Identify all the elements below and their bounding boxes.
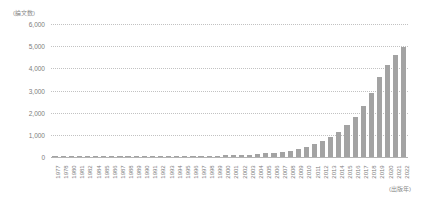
y-axis-tick-label: 0 — [5, 154, 45, 161]
x-label-slot: 1997 — [197, 159, 205, 189]
bar — [280, 152, 285, 157]
x-label-slot: 1996 — [189, 159, 197, 189]
bar — [166, 156, 171, 157]
bar-slot — [92, 24, 100, 157]
bar-slot — [302, 24, 310, 157]
bar — [271, 153, 276, 157]
x-label-slot: 1980 — [67, 159, 75, 189]
x-label-slot: 1977 — [51, 159, 59, 189]
x-label-slot: 2003 — [246, 159, 254, 189]
bar-slot — [221, 24, 229, 157]
bar — [336, 132, 341, 157]
bar-slot — [367, 24, 375, 157]
bar-slot — [100, 24, 108, 157]
x-label-slot: 1992 — [156, 159, 164, 189]
bar — [215, 156, 220, 157]
bar-slot — [294, 24, 302, 157]
bar — [377, 77, 382, 157]
bar-slot — [213, 24, 221, 157]
bar-slot — [197, 24, 205, 157]
x-label-slot: 2010 — [302, 159, 310, 189]
x-label-slot: 2012 — [319, 159, 327, 189]
bar — [93, 156, 98, 157]
x-label-slot: 1989 — [132, 159, 140, 189]
bar-slot — [51, 24, 59, 157]
bar-slot — [189, 24, 197, 157]
y-axis-tick-label: 4,000 — [5, 65, 45, 72]
bar — [52, 156, 57, 157]
bar-slot — [173, 24, 181, 157]
bar-slot — [375, 24, 383, 157]
x-label-slot: 1998 — [205, 159, 213, 189]
bar — [134, 156, 139, 157]
bar — [198, 156, 203, 157]
bar-slot — [116, 24, 124, 157]
bar — [328, 137, 333, 157]
bar-slot — [67, 24, 75, 157]
x-label-slot: 2019 — [375, 159, 383, 189]
bar-slot — [392, 24, 400, 157]
x-label-slot: 2017 — [359, 159, 367, 189]
y-axis-tick-label: 1,000 — [5, 131, 45, 138]
bar-slot — [140, 24, 148, 157]
bar-slot — [181, 24, 189, 157]
x-label-slot: 1990 — [140, 159, 148, 189]
x-label-slot: 1987 — [116, 159, 124, 189]
y-axis-tick-label: 6,000 — [5, 21, 45, 28]
bar-slot — [383, 24, 391, 157]
x-label-slot: 1984 — [92, 159, 100, 189]
bar — [320, 141, 325, 157]
bar-slot — [327, 24, 335, 157]
bar-slot — [319, 24, 327, 157]
x-label-slot: 2013 — [327, 159, 335, 189]
bar — [247, 155, 252, 157]
bar-slot — [229, 24, 237, 157]
x-label-slot: 2016 — [351, 159, 359, 189]
bar-slot — [108, 24, 116, 157]
x-label-slot: 1981 — [75, 159, 83, 189]
bar-slot — [270, 24, 278, 157]
bar — [125, 156, 130, 157]
x-label-slot: 1988 — [124, 159, 132, 189]
bar-slot — [335, 24, 343, 157]
bar-slot — [238, 24, 246, 157]
bar — [255, 154, 260, 157]
x-label-slot: 2011 — [311, 159, 319, 189]
axis-baseline — [51, 157, 408, 158]
bar — [361, 106, 366, 157]
plot-area — [51, 24, 408, 157]
bar — [61, 156, 66, 157]
bar — [77, 156, 82, 157]
x-label-slot: 2007 — [278, 159, 286, 189]
bar — [182, 156, 187, 157]
bar — [190, 156, 195, 157]
x-label-slot: 2009 — [294, 159, 302, 189]
bar-slot — [165, 24, 173, 157]
bar — [304, 147, 309, 157]
bar — [393, 55, 398, 157]
x-label-slot: 1985 — [100, 159, 108, 189]
x-label-slot: 2015 — [343, 159, 351, 189]
x-label-slot: 1991 — [148, 159, 156, 189]
bar-slot — [148, 24, 156, 157]
bar-slot — [205, 24, 213, 157]
x-label-slot: 2004 — [254, 159, 262, 189]
bar-slot — [278, 24, 286, 157]
y-axis-tick-label: 5,000 — [5, 43, 45, 50]
bar — [231, 155, 236, 157]
x-label-slot: 1994 — [173, 159, 181, 189]
bar-slot — [343, 24, 351, 157]
x-axis-unit-label: (出版年) — [389, 184, 411, 193]
bar — [69, 156, 74, 157]
bar-slot — [59, 24, 67, 157]
bar-slot — [132, 24, 140, 157]
bar — [239, 155, 244, 157]
x-label-slot: 2005 — [262, 159, 270, 189]
bar — [109, 156, 114, 157]
x-label-slot: 2000 — [221, 159, 229, 189]
y-axis-unit-label: (論文数) — [13, 8, 35, 17]
y-axis-tick-label: 2,000 — [5, 109, 45, 116]
x-axis-tick-label: 2022 — [404, 165, 410, 178]
bar-slot — [311, 24, 319, 157]
x-axis-tick-labels: 1977197819801981198219841985198619871988… — [51, 159, 408, 189]
